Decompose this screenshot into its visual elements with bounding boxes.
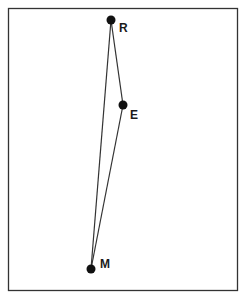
edge-e-m	[91, 105, 123, 269]
frame-border	[9, 9, 238, 291]
point-e-label: E	[130, 108, 138, 122]
point-m-label: M	[100, 257, 110, 271]
edge-m-r	[91, 20, 111, 269]
point-m-marker	[87, 265, 96, 274]
edges	[91, 20, 123, 269]
point-e-marker	[119, 101, 128, 110]
point-m: M	[87, 257, 111, 274]
point-r-marker	[107, 16, 116, 25]
triangle-diagram: R E M	[0, 0, 244, 296]
point-r-label: R	[119, 21, 128, 35]
